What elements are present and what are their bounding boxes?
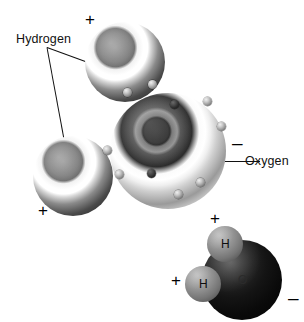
charge-sign-oxygen: – [232, 133, 243, 152]
charge-sign-hydrogen-top: + [85, 11, 95, 28]
electron-sphere [147, 169, 156, 178]
label-hydrogen: Hydrogen [16, 33, 71, 46]
atom-oxygen [110, 93, 226, 209]
inset-label-hydrogen-left: H [199, 278, 208, 290]
electron-sphere [170, 100, 179, 109]
electron-sphere [123, 88, 132, 97]
figure-canvas: Hydrogen Oxygen + + – H H O + + – [0, 0, 304, 322]
charge-sign-hydrogen-lower-left: + [38, 202, 48, 219]
inset-space-filling-model: H H O + + – [172, 214, 304, 322]
electron-sphere [103, 146, 112, 155]
inset-label-hydrogen-top: H [221, 238, 230, 250]
inset-charge-sign-hydrogen-left: + [171, 272, 181, 289]
electron-sphere [115, 170, 124, 179]
electron-sphere [174, 190, 183, 199]
electron-sphere [196, 178, 205, 187]
inset-charge-sign-oxygen: – [288, 288, 299, 307]
inset-label-oxygen: O [238, 274, 247, 286]
electron-sphere [148, 80, 157, 89]
leader-line-hydrogen-lower [47, 47, 66, 146]
electron-sphere [217, 122, 226, 131]
label-oxygen: Oxygen [245, 155, 289, 168]
electron-sphere [203, 97, 212, 106]
inset-charge-sign-hydrogen-top: + [210, 210, 220, 227]
